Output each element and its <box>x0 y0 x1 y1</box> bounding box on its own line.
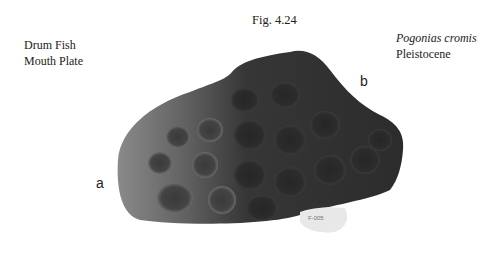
fossil-specimen-image: F-005 <box>0 0 504 256</box>
annotation-b: b <box>360 73 368 89</box>
annotation-a: a <box>96 175 104 191</box>
catalog-label-text: F-005 <box>308 215 324 221</box>
